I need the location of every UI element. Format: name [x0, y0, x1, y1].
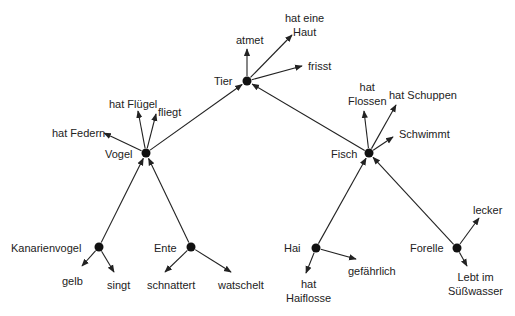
prop-label-atmet: atmet: [236, 33, 264, 47]
property-arrow: [82, 251, 96, 266]
node-label-fisch: Fisch: [331, 147, 357, 161]
prop-label-line: Lebt im: [448, 270, 503, 284]
prop-label-hat-flossen: hat Flossen: [348, 80, 387, 108]
isa-arrow: [101, 158, 143, 242]
property-arrow: [102, 251, 114, 272]
property-arrow: [306, 253, 314, 273]
property-arrow: [147, 114, 156, 148]
prop-label-hat-haiflosse: hat Haiflosse: [286, 277, 331, 305]
node-dot-ente: [187, 243, 196, 252]
node-label-forelle: Forelle: [410, 241, 444, 255]
prop-label-schwimmt: Schwimmt: [399, 127, 450, 141]
prop-label-hat-eine-haut: hat eine Haut: [285, 11, 324, 39]
property-arrow: [459, 252, 467, 266]
prop-label-hat-federn: hat Federn: [52, 126, 105, 140]
property-arrow: [195, 250, 231, 272]
prop-label-lecker: lecker: [473, 203, 502, 217]
prop-label-hat-schuppen: hat Schuppen: [389, 88, 457, 102]
node-dot-tier: [243, 77, 252, 86]
isa-arrow: [149, 158, 189, 242]
node-dot-kanarienvogel: [95, 243, 104, 252]
node-label-tier: Tier: [214, 74, 233, 88]
isa-arrow: [373, 157, 454, 244]
prop-label-line: hat eine: [285, 11, 324, 25]
node-label-vogel: Vogel: [105, 147, 133, 161]
property-arrow: [364, 111, 368, 148]
prop-label-line: hat: [286, 277, 331, 291]
property-arrow: [371, 105, 396, 149]
node-dot-vogel: [142, 149, 151, 158]
prop-label-fliegt: fliegt: [158, 105, 181, 119]
node-dot-hai: [312, 244, 321, 253]
prop-label-line: hat: [348, 80, 387, 94]
property-arrow: [460, 218, 479, 244]
node-dot-forelle: [453, 244, 462, 253]
property-arrow: [373, 137, 393, 150]
prop-label-lebt-im-suesswasser: Lebt im Süßwasser: [448, 270, 503, 298]
prop-label-frisst: frisst: [308, 59, 331, 73]
prop-label-line: Haut: [285, 25, 324, 39]
node-label-ente: Ente: [154, 241, 177, 255]
prop-label-hat-fluegel: hat Flügel: [109, 97, 157, 111]
prop-label-gelb: gelb: [62, 274, 83, 288]
prop-label-line: Haiflosse: [286, 291, 331, 305]
prop-label-watschelt: watschelt: [218, 278, 264, 292]
prop-label-singt: singt: [107, 278, 130, 292]
node-label-hai: Hai: [284, 241, 301, 255]
property-arrow: [138, 111, 145, 148]
isa-arrow: [318, 158, 366, 243]
prop-label-line: Süßwasser: [448, 284, 503, 298]
semantic-network-diagram: [0, 0, 515, 316]
prop-label-schnattert: schnattert: [147, 278, 195, 292]
node-dot-fisch: [365, 149, 374, 158]
node-label-kanarienvogel: Kanarienvogel: [11, 241, 81, 255]
prop-label-line: Flossen: [348, 94, 387, 108]
prop-label-gefaehrlich: gefährlich: [348, 264, 396, 278]
edges: [82, 35, 479, 273]
property-arrow: [321, 249, 356, 259]
